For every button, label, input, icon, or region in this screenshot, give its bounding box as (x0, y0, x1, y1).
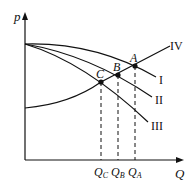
curve-III-label: III (151, 119, 163, 133)
curve-I-label: I (159, 73, 163, 87)
svg-text:QA: QA (128, 165, 142, 180)
tick-Qa: QA (128, 165, 142, 180)
svg-text:QB: QB (111, 165, 125, 180)
point-C-label: C (96, 67, 105, 81)
tick-Qc: QC (94, 165, 109, 180)
tick-Qb: QB (111, 165, 125, 180)
curve-IV-label: IV (170, 39, 183, 53)
svg-text:QC: QC (94, 165, 109, 180)
point-B-label: B (113, 60, 121, 74)
y-axis-arrow-icon (22, 12, 28, 20)
point-A-label: A (129, 51, 138, 65)
diagram-canvas: p Q I II III IV C B A QC QB QA (0, 0, 196, 184)
x-axis-arrow-icon (176, 157, 184, 163)
x-axis-label: Q (175, 166, 185, 181)
y-axis-label: p (13, 9, 21, 24)
curve-II-label: II (155, 93, 163, 107)
